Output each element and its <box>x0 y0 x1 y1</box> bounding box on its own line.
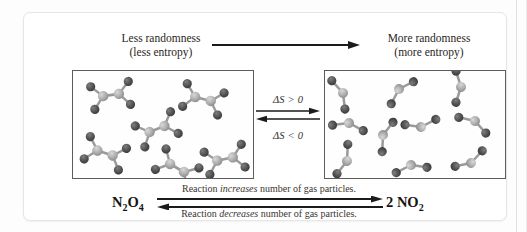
molecule <box>450 141 488 176</box>
n2o4-molecule-illustrations <box>73 71 253 178</box>
molecule <box>325 138 364 178</box>
forward-caption-emphasis: increases <box>220 183 257 194</box>
reactant-element-1: N <box>112 194 122 210</box>
nitrogen-dioxide-molecules-box <box>324 70 506 179</box>
left-header-line2: (less entropy) <box>106 46 216 60</box>
double-arrow-icon <box>256 107 320 124</box>
molecule <box>399 101 442 143</box>
right-header-line2: (more entropy) <box>369 46 489 60</box>
right-header-line1: More randomness <box>369 32 489 46</box>
reverse-reaction-caption: Reaction decreases number of gas particl… <box>154 208 384 219</box>
molecule <box>176 78 230 121</box>
molecule <box>77 131 132 176</box>
molecule <box>453 105 492 146</box>
molecule <box>390 149 433 178</box>
no2-molecule-illustrations <box>325 71 505 178</box>
reverse-caption-emphasis: decreases <box>219 208 258 219</box>
dinitrogen-tetroxide-molecules-box <box>72 70 254 179</box>
left-header-line1: Less randomness <box>106 32 216 46</box>
reactant-formula: N2O4 <box>112 194 144 213</box>
right-header-label: More randomness (more entropy) <box>369 32 489 59</box>
reactant-subscript-2: 4 <box>139 202 144 213</box>
molecule <box>148 143 205 178</box>
delta-s-positive-label: ΔS > 0 <box>256 93 320 106</box>
reaction-equation-row: N2O4 Reaction increases number of gas pa… <box>24 181 506 221</box>
molecule <box>85 76 136 114</box>
right-arrow-icon <box>212 38 360 52</box>
product-coefficient-and-element: 2 NO <box>386 194 419 210</box>
entropy-change-annotation: ΔS > 0 ΔS < 0 <box>256 93 320 142</box>
delta-s-negative-label: ΔS < 0 <box>256 129 320 142</box>
molecule <box>199 139 252 178</box>
molecule <box>325 75 357 115</box>
figure-card: Less randomness (less entropy) More rand… <box>23 12 507 221</box>
figure-canvas: Less randomness (less entropy) More rand… <box>0 0 527 232</box>
reverse-caption-pre: Reaction <box>181 208 219 219</box>
molecule <box>434 71 478 109</box>
molecule <box>129 106 185 154</box>
left-header-label: Less randomness (less entropy) <box>106 32 216 59</box>
molecule <box>385 77 421 109</box>
forward-caption-pre: Reaction <box>182 183 220 194</box>
reverse-caption-post: number of gas particles. <box>258 208 357 219</box>
product-formula: 2 NO2 <box>386 194 424 213</box>
page-edge-line <box>516 0 517 232</box>
reactant-element-2: O <box>127 194 138 210</box>
forward-caption-post: number of gas particles. <box>257 183 356 194</box>
product-subscript: 2 <box>419 202 424 213</box>
forward-reaction-caption: Reaction increases number of gas particl… <box>154 183 384 194</box>
